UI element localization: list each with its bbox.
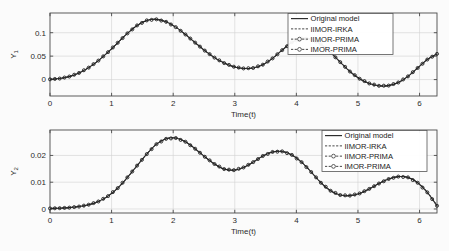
x-tick-label: 0 xyxy=(48,99,53,108)
legend-label: IIMOR-IRKA xyxy=(311,25,354,34)
legend-label: IIMOR-PRIMA xyxy=(345,152,394,161)
x-tick-label: 1 xyxy=(109,216,114,225)
x-tick-label: 3 xyxy=(233,99,238,108)
legend: Original modelIIMOR-IRKAIIMOR-PRIMAIMOR-… xyxy=(288,14,393,55)
chart-panel-top: 012345600.050.1Time(t)Y1Original modelII… xyxy=(0,0,449,125)
legend-swatch-marker xyxy=(298,47,302,51)
figure-container: 012345600.050.1Time(t)Y1Original modelII… xyxy=(0,0,449,251)
y-axis-title: Y1 xyxy=(9,50,19,59)
x-tick-label: 3 xyxy=(233,216,238,225)
legend: Original modelIIMOR-IRKAIIMOR-PRIMAIMOR-… xyxy=(322,131,427,172)
y-tick-label: 0.1 xyxy=(35,29,47,38)
x-tick-label: 5 xyxy=(356,216,361,225)
legend-label: Original model xyxy=(345,131,394,140)
x-tick-label: 6 xyxy=(417,216,422,225)
x-tick-label: 2 xyxy=(171,216,176,225)
legend-label: IMOR-PRIMA xyxy=(311,45,358,54)
legend-swatch-marker xyxy=(332,164,336,168)
x-axis-title: Time(t) xyxy=(231,110,256,119)
svg-text:Y1: Y1 xyxy=(9,50,19,59)
y-tick-label: 0 xyxy=(42,205,47,214)
x-tick-label: 2 xyxy=(171,99,176,108)
x-tick-label: 4 xyxy=(294,216,299,225)
legend-swatch-marker xyxy=(298,37,302,41)
legend-label: IIMOR-IRKA xyxy=(345,142,388,151)
plot-area-bottom: 012345600.010.02Time(t)Y2Original modelI… xyxy=(0,125,449,251)
chart-panel-bottom: 012345600.010.02Time(t)Y2Original modelI… xyxy=(0,125,449,251)
x-tick-label: 1 xyxy=(109,99,114,108)
plot-area-top: 012345600.050.1Time(t)Y1Original modelII… xyxy=(0,0,449,125)
legend-label: IIMOR-PRIMA xyxy=(311,35,360,44)
legend-label: Original model xyxy=(311,14,360,23)
legend-swatch-marker xyxy=(332,154,336,158)
y-tick-label: 0 xyxy=(42,75,47,84)
legend-label: IMOR-PRIMA xyxy=(345,162,392,171)
y-tick-label: 0.05 xyxy=(30,52,46,61)
x-axis-title: Time(t) xyxy=(231,227,256,236)
x-tick-label: 0 xyxy=(48,216,53,225)
x-tick-label: 6 xyxy=(417,99,422,108)
y-tick-label: 0.02 xyxy=(30,151,46,160)
y-axis-title: Y2 xyxy=(9,167,19,176)
y-tick-label: 0.01 xyxy=(30,178,46,187)
svg-text:Y2: Y2 xyxy=(9,167,19,176)
x-tick-label: 5 xyxy=(356,99,361,108)
x-tick-label: 4 xyxy=(294,99,299,108)
